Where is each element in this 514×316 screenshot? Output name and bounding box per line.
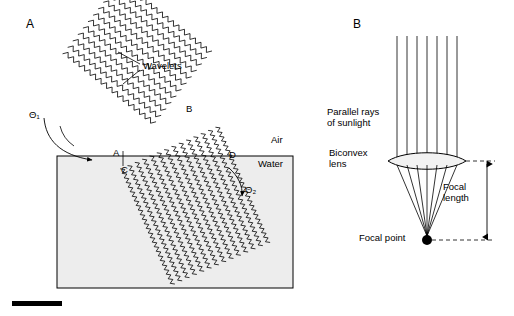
focal-point-dot (422, 235, 432, 245)
figure-root: A (0, 0, 514, 316)
biconvex-lens-label: Biconvex lens (329, 148, 368, 169)
parallel-rays (397, 36, 457, 158)
focal-point-label: Focal point (359, 233, 405, 244)
parallel-rays-label: Parallel rays of sunlight (327, 107, 379, 128)
panel-b-graphics (0, 0, 514, 316)
focal-length-label: Focal length (443, 182, 469, 203)
